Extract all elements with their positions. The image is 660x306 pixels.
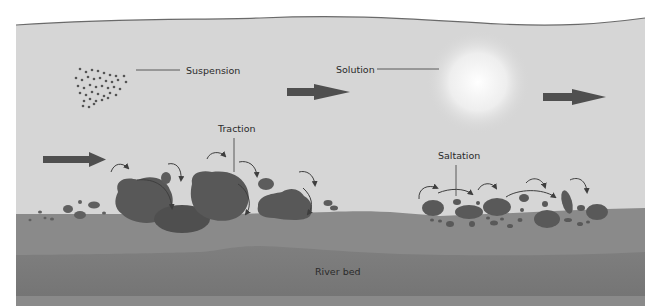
- traction-label: Traction: [217, 123, 256, 134]
- solution-glow: [426, 30, 530, 134]
- saltation-label: Saltation: [438, 150, 480, 161]
- solution-label: Solution: [336, 64, 375, 75]
- river-bed-label: River bed: [315, 266, 361, 277]
- suspension-label: Suspension: [186, 65, 240, 76]
- river-transport-diagram: Suspension Solution Traction: [0, 0, 660, 306]
